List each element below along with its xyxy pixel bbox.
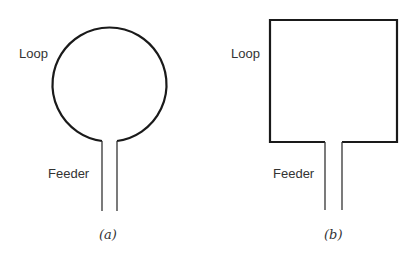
- loop-label: Loop: [19, 46, 48, 61]
- loop-label: Loop: [231, 46, 260, 61]
- panel-a-circular-loop: Loop Feeder (a): [19, 27, 167, 242]
- feeder-label: Feeder: [48, 166, 90, 181]
- panel-b-square-loop: Loop Feeder (b): [231, 20, 397, 242]
- circular-loop-conductor: [53, 27, 167, 141]
- caption-b: (b): [324, 227, 342, 242]
- caption-a: (a): [99, 227, 117, 242]
- loop-antenna-diagram: Loop Feeder (a) Loop Feeder (b): [0, 0, 412, 256]
- feeder-label: Feeder: [273, 166, 315, 181]
- square-loop-conductor: [270, 20, 397, 142]
